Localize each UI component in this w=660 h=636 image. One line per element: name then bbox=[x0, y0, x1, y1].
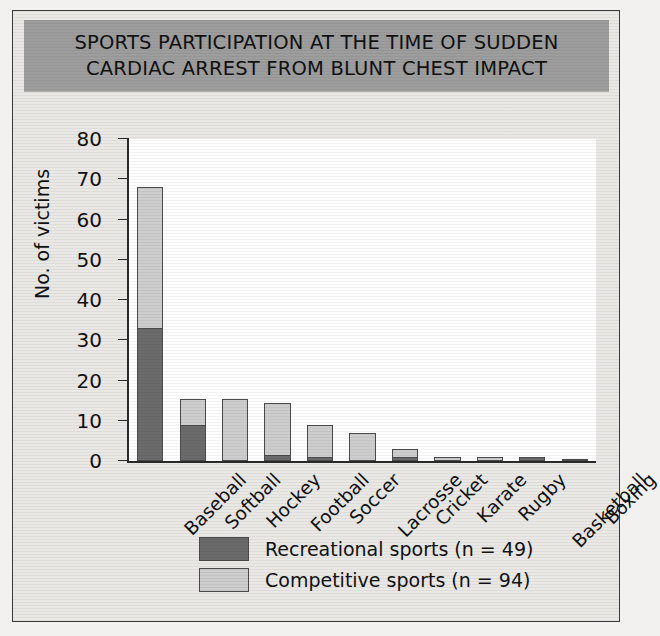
y-tick-0: 0 bbox=[118, 460, 129, 461]
bar-segment-competitive bbox=[222, 399, 248, 461]
y-tick-30: 30 bbox=[118, 339, 129, 340]
bar-hockey[interactable] bbox=[222, 399, 248, 461]
bar-segment-competitive bbox=[137, 187, 163, 328]
bar-segment-competitive bbox=[264, 403, 290, 455]
bar-segment-competitive bbox=[307, 425, 333, 457]
bar-segment-recreational bbox=[307, 457, 333, 461]
bar-karate[interactable] bbox=[434, 457, 460, 461]
y-tick-label: 50 bbox=[77, 247, 102, 271]
bar-group bbox=[129, 139, 596, 461]
bar-segment-competitive bbox=[434, 457, 460, 461]
y-tick-50: 50 bbox=[118, 259, 129, 260]
bar-baseball[interactable] bbox=[137, 187, 163, 461]
legend-swatch bbox=[199, 568, 249, 592]
bar-segment-recreational bbox=[180, 425, 206, 461]
y-tick-label: 20 bbox=[77, 368, 102, 392]
bar-boxing[interactable] bbox=[562, 459, 588, 461]
legend-label: Competitive sports (n = 94) bbox=[265, 569, 530, 591]
y-tick-20: 20 bbox=[118, 380, 129, 381]
y-tick-label: 10 bbox=[77, 408, 102, 432]
y-tick-10: 10 bbox=[118, 420, 129, 421]
legend-item-recreational[interactable]: Recreational sports (n = 49) bbox=[199, 537, 539, 561]
bar-segment-recreational bbox=[392, 457, 418, 461]
bar-lacrosse[interactable] bbox=[349, 433, 375, 461]
legend-item-competitive[interactable]: Competitive sports (n = 94) bbox=[199, 568, 539, 592]
title-banner: SPORTS PARTICIPATION AT THE TIME OF SUDD… bbox=[24, 20, 609, 91]
bar-cricket[interactable] bbox=[392, 449, 418, 461]
bar-segment-competitive bbox=[392, 449, 418, 457]
legend-swatch bbox=[199, 537, 249, 561]
bar-segment-recreational bbox=[137, 328, 163, 461]
y-axis-title: No. of victims bbox=[31, 169, 53, 299]
plot-area: 01020304050607080 bbox=[127, 139, 596, 463]
y-tick-60: 60 bbox=[118, 219, 129, 220]
y-tick-label: 60 bbox=[77, 207, 102, 231]
y-tick-label: 30 bbox=[77, 328, 102, 352]
plot-wrapper: No. of victims 01020304050607080 Basebal… bbox=[13, 99, 619, 619]
bar-softball[interactable] bbox=[180, 399, 206, 461]
bar-soccer[interactable] bbox=[307, 425, 333, 461]
bar-segment-recreational bbox=[264, 455, 290, 461]
bar-rugby[interactable] bbox=[477, 457, 503, 461]
figure-panel: SPORTS PARTICIPATION AT THE TIME OF SUDD… bbox=[12, 10, 620, 622]
y-tick-label: 70 bbox=[77, 167, 102, 191]
y-tick-label: 80 bbox=[77, 127, 102, 151]
y-tick-label: 0 bbox=[89, 449, 102, 473]
y-tick-80: 80 bbox=[118, 138, 129, 139]
legend-label: Recreational sports (n = 49) bbox=[265, 538, 533, 560]
y-tick-40: 40 bbox=[118, 299, 129, 300]
page-title: SPORTS PARTICIPATION AT THE TIME OF SUDD… bbox=[24, 30, 609, 81]
bar-segment-recreational bbox=[519, 457, 545, 461]
bar-basketball[interactable] bbox=[519, 457, 545, 461]
bar-segment-competitive bbox=[477, 457, 503, 461]
bar-football[interactable] bbox=[264, 403, 290, 461]
y-tick-70: 70 bbox=[118, 178, 129, 179]
bar-segment-recreational bbox=[562, 459, 588, 461]
y-tick-label: 40 bbox=[77, 288, 102, 312]
bar-segment-competitive bbox=[180, 399, 206, 425]
chart-legend: Recreational sports (n = 49)Competitive … bbox=[199, 537, 539, 599]
bar-segment-competitive bbox=[349, 433, 375, 461]
